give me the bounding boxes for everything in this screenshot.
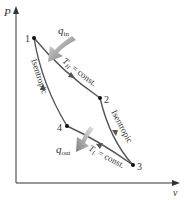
y-axis-label: P [3,6,11,18]
pv-diagram: P v 1 2 3 4 qin qout TH = const. Isentro… [0,0,187,200]
heat-out-label: qout [56,143,71,157]
process-4-1-label: Isentropic [29,58,50,95]
x-axis-arrow-icon [172,180,180,186]
heat-in-label: qin [58,24,69,38]
process-2-3-label: Isentropic [109,108,135,144]
state-4-dot [65,124,69,128]
state-3-label: 3 [137,161,142,172]
state-4-label: 4 [57,122,62,133]
x-axis-label: v [173,187,178,198]
state-3-dot [131,163,135,167]
state-1-dot [32,36,36,40]
process-1-2-label: TH = const. [60,56,98,89]
state-2-dot [98,96,102,100]
y-axis-arrow-icon [13,6,19,14]
heat-in-arrow-icon [48,36,76,62]
state-1-label: 1 [25,33,30,44]
state-2-label: 2 [104,94,109,105]
